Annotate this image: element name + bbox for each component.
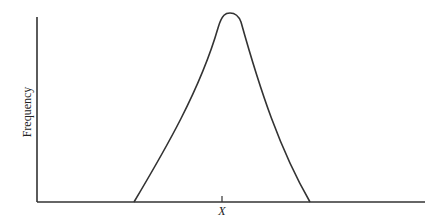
y-axis-label: Frequency (20, 87, 35, 138)
x-tick-label: X (218, 204, 225, 219)
chart: Frequency X (0, 0, 425, 222)
distribution-curve (134, 13, 310, 202)
plot-area (0, 0, 425, 222)
